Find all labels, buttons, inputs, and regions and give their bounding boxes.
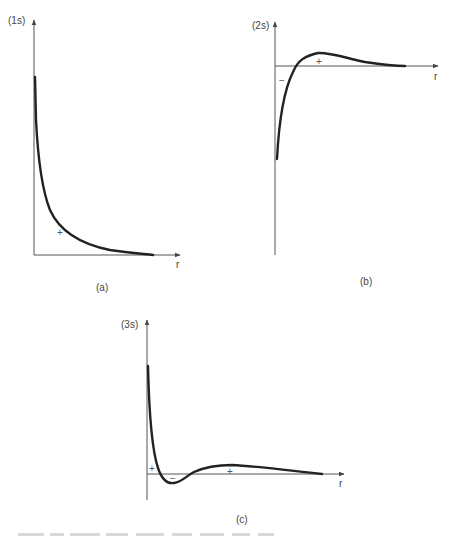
- faded-caption-remnant: [18, 533, 274, 536]
- panel-b-2s: (2s) r − + (b): [252, 20, 438, 287]
- x-axis-label: r: [434, 71, 438, 82]
- panel-a-1s: (1s) r + (a): [8, 15, 180, 293]
- 3s-curve: [148, 366, 322, 483]
- orbital-wavefunction-figure: (1s) r + (a) (2s) r − + (b) (3s) r + − +…: [0, 0, 454, 539]
- 2s-curve: [277, 53, 405, 159]
- sign-positive-1: +: [149, 463, 155, 474]
- panel-caption: (c): [236, 514, 248, 525]
- panel-caption: (b): [360, 276, 372, 287]
- x-axis-label: r: [339, 478, 343, 489]
- y-axis-label: (1s): [8, 15, 25, 26]
- sign-negative: −: [170, 473, 176, 484]
- 1s-curve: [35, 77, 153, 255]
- sign-negative: −: [279, 75, 285, 86]
- x-axis-label: r: [176, 259, 180, 270]
- sign-positive: +: [316, 56, 322, 67]
- sign-positive-2: +: [227, 466, 233, 477]
- y-axis-label: (2s): [252, 20, 269, 31]
- sign-positive: +: [57, 227, 63, 238]
- panel-c-3s: (3s) r + − + (c): [121, 319, 344, 525]
- panel-caption: (a): [96, 282, 108, 293]
- y-axis-label: (3s): [121, 319, 138, 330]
